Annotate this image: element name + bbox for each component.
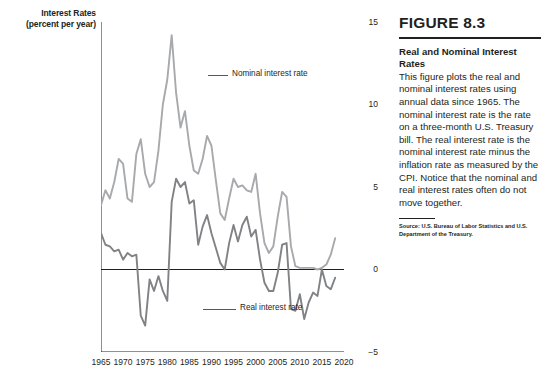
nominal-series-label: Nominal interest rate [232, 69, 308, 78]
real-series-label: Real interest rate [240, 303, 302, 312]
nominal-leader-line [208, 75, 228, 76]
source-divider [399, 218, 435, 219]
y-axis-title-line1: Interest Rates [0, 8, 96, 19]
real-leader-line [203, 309, 236, 310]
caption-panel: FIGURE 8.3 Real and Nominal Interest Rat… [378, 0, 541, 387]
figure-divider [399, 37, 541, 39]
source-note: Source: U.S. Bureau of Labor Statistics … [399, 223, 541, 237]
figure-page: Interest Rates (percent per year) 151050… [0, 0, 541, 387]
figure-number: FIGURE 8.3 [399, 14, 541, 32]
caption-title-line1: Real and Nominal Interest [399, 46, 541, 58]
y-axis-title-line2: (percent per year) [0, 19, 96, 30]
caption-title-line2: Rates [399, 58, 541, 70]
caption-inner: FIGURE 8.3 Real and Nominal Interest Rat… [399, 0, 541, 238]
caption-body: This figure plots the real and nominal i… [399, 71, 541, 210]
chart-region: Interest Rates (percent per year) 151050… [0, 0, 378, 387]
x-tick-label-2020: 2020 [324, 357, 364, 367]
